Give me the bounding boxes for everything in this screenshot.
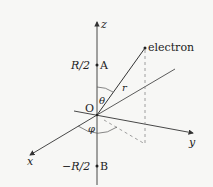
b-coordinate-label: −R/2: [62, 160, 90, 173]
electron-label: electron: [148, 41, 194, 54]
a-coordinate-label: R/2: [70, 59, 90, 72]
origin-label: O: [85, 102, 94, 115]
r-vector-label: r: [122, 82, 128, 93]
x-axis: [30, 115, 97, 155]
a-point-label: A: [99, 59, 109, 72]
phi-arc: [78, 126, 117, 133]
y-axis-label: y: [188, 136, 196, 149]
x-axis-negative: [97, 69, 175, 115]
point-a: [96, 64, 99, 67]
spherical-coordinates-diagram: z y x R/2 A −R/2 B electron O r θ φ: [0, 0, 213, 187]
x-axis-label: x: [27, 155, 34, 168]
theta-arc: [97, 87, 113, 92]
electron-point: [144, 47, 147, 50]
z-axis-label: z: [100, 18, 107, 31]
phi-label: φ: [88, 123, 95, 134]
origin-point: [96, 114, 98, 116]
ground-projection-dashed: [104, 120, 145, 144]
theta-label: θ: [99, 95, 105, 106]
point-b: [96, 165, 99, 168]
diagram-svg: z y x R/2 A −R/2 B electron O r θ φ: [0, 0, 213, 187]
b-point-label: B: [100, 160, 108, 173]
